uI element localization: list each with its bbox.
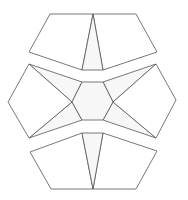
top-right-pentagon xyxy=(93,14,157,70)
polyhedron-net-diagram xyxy=(0,0,188,200)
top-strip xyxy=(29,14,157,70)
bottom-strip xyxy=(30,133,157,189)
middle-strip xyxy=(8,64,176,138)
bottom-right-pentagon xyxy=(93,133,157,189)
